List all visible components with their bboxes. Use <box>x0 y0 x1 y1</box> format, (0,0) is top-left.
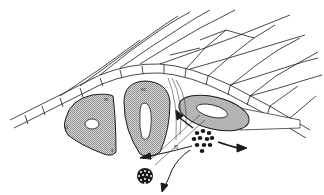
label-d: d <box>65 124 68 130</box>
embryo-cross-section-diagram: m d s sc n <box>0 0 324 195</box>
label-sc: sc <box>141 86 147 92</box>
label-m: m <box>104 96 108 102</box>
label-n: n <box>174 143 178 150</box>
nerve-bundle <box>137 168 153 184</box>
arrow-right-icon <box>218 142 238 148</box>
cell-cluster <box>192 129 215 153</box>
sclerotome: sc <box>124 81 170 157</box>
dermomyotome: m d s <box>64 94 116 155</box>
arrow-down-icon <box>165 150 190 186</box>
